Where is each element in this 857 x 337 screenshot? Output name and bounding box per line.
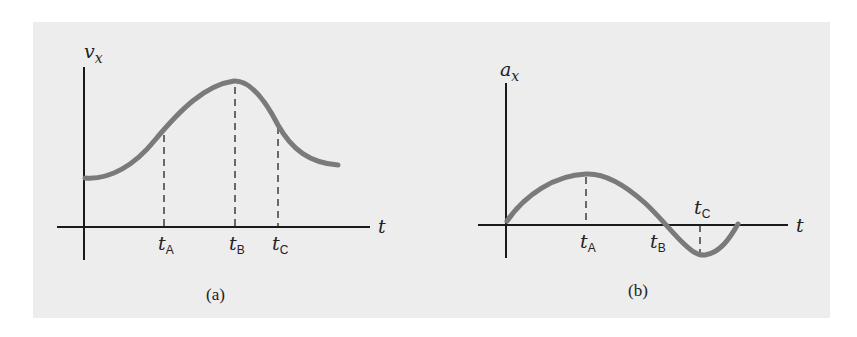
panel-b-tick-label-tB: tB: [650, 230, 666, 255]
panel-a-velocity-graph: vx t tA tB tC (a): [57, 40, 386, 304]
panel-b-acceleration-graph: ax t tA tB tC (b): [478, 58, 804, 300]
panel-a-tick-label-tB: tB: [229, 232, 245, 257]
panel-a-x-axis-label: t: [378, 215, 386, 237]
panel-b-tick-label-tA: tA: [580, 230, 596, 255]
panel-b-caption: (b): [628, 281, 648, 300]
panel-a-y-axis-label: vx: [84, 40, 103, 66]
panel-b-y-axis-label: ax: [500, 58, 519, 84]
panel-a-tick-label-tA: tA: [158, 232, 174, 257]
figure-canvas: vx t tA tB tC (a) ax t tA tB tC (b): [0, 0, 857, 337]
panel-b-tick-label-tC: tC: [694, 196, 711, 221]
panel-a-tick-label-tC: tC: [272, 232, 289, 257]
panel-a-velocity-curve: [85, 81, 338, 178]
panel-a-caption: (a): [206, 285, 225, 304]
panel-b-x-axis-label: t: [796, 214, 804, 236]
